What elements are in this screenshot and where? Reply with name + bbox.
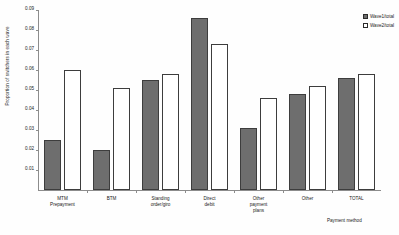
y-tick-label: 0.06 [25, 66, 34, 71]
bar-wave1 [93, 150, 110, 190]
y-tick [36, 10, 39, 11]
y-tick-label: 0.05 [25, 86, 34, 91]
bar-wave2 [64, 70, 81, 190]
legend-item: Wave1/total [363, 14, 394, 19]
bar-wave2 [162, 74, 179, 190]
y-tick [36, 170, 39, 171]
legend-label: Wave2/total [370, 23, 394, 28]
legend-label: Wave1/total [370, 14, 394, 19]
bar-wave2 [211, 44, 228, 190]
y-tick [36, 130, 39, 131]
y-tick-label: 0.03 [25, 126, 34, 131]
y-tick [36, 150, 39, 151]
x-axis-line [38, 190, 381, 191]
bar-wave1 [142, 80, 159, 190]
x-tick [87, 190, 88, 193]
plot-area: 0.010.020.030.040.050.060.070.080.09 [38, 10, 381, 190]
bar-wave2 [309, 86, 326, 190]
legend-swatch-wave1-icon [363, 14, 368, 19]
bar-wave2 [113, 88, 130, 190]
bar-wave1 [240, 128, 257, 190]
y-tick-label: 0.04 [25, 106, 34, 111]
y-tick [36, 90, 39, 91]
y-tick-label: 0.01 [25, 166, 34, 171]
x-tick [136, 190, 137, 193]
bar-wave2 [260, 98, 277, 190]
legend-item: Wave2/total [363, 23, 394, 28]
x-category-label: TOTAL [323, 196, 390, 202]
y-tick-label: 0.08 [25, 26, 34, 31]
y-tick [36, 70, 39, 71]
bar-wave2 [358, 74, 375, 190]
x-tick [283, 190, 284, 193]
chart-figure: Proportion of switchers in each wave 0.0… [0, 0, 399, 235]
y-tick [36, 110, 39, 111]
bar-wave1 [44, 140, 61, 190]
bar-wave1 [338, 78, 355, 190]
y-tick-label: 0.07 [25, 46, 34, 51]
chart-legend: Wave1/total Wave2/total [363, 14, 394, 32]
bar-wave1 [191, 18, 208, 190]
x-tick [332, 190, 333, 193]
y-axis-line [38, 10, 39, 190]
x-tick [234, 190, 235, 193]
legend-swatch-wave2-icon [363, 23, 368, 28]
bar-wave1 [289, 94, 306, 190]
y-tick-label: 0.09 [25, 6, 34, 11]
y-tick-label: 0.02 [25, 146, 34, 151]
y-tick [36, 30, 39, 31]
y-axis-title: Proportion of switchers in each wave [5, 6, 17, 126]
x-tick [185, 190, 186, 193]
x-axis-title: Payment method [327, 218, 362, 223]
y-tick [36, 50, 39, 51]
